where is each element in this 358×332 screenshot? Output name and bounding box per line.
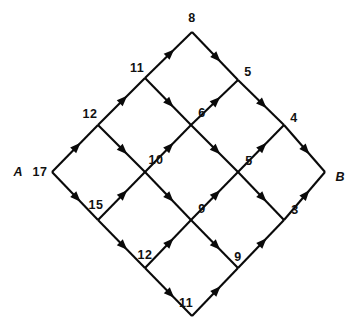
terminal-node-label-b: B xyxy=(335,171,344,184)
edge-capacity-label: 4 xyxy=(290,112,297,125)
edge-capacity-label: 6 xyxy=(198,107,205,120)
edge-capacity-label: 12 xyxy=(138,249,153,262)
network-graph-svg xyxy=(0,0,358,332)
edge-capacity-label: 17 xyxy=(33,166,48,179)
edge-capacity-label: 11 xyxy=(130,62,144,75)
edge-capacity-label: 8 xyxy=(188,12,195,25)
edge-capacity-label: 9 xyxy=(198,203,205,216)
edge-capacity-label: 11 xyxy=(179,297,193,310)
edge-layer xyxy=(52,32,325,316)
edge-capacity-label: 9 xyxy=(234,251,241,264)
edge-capacity-label: 15 xyxy=(89,199,104,212)
edge-capacity-label: 12 xyxy=(83,108,98,121)
terminal-node-label-a: A xyxy=(13,166,22,179)
network-diagram-canvas: 8115126417105159312911 AB xyxy=(0,0,358,332)
edge-capacity-label: 10 xyxy=(149,154,164,167)
edge-capacity-label: 5 xyxy=(244,66,251,79)
edge-capacity-label: 5 xyxy=(245,155,252,168)
arrowhead-layer xyxy=(70,49,309,297)
edge-capacity-label: 3 xyxy=(291,204,298,217)
